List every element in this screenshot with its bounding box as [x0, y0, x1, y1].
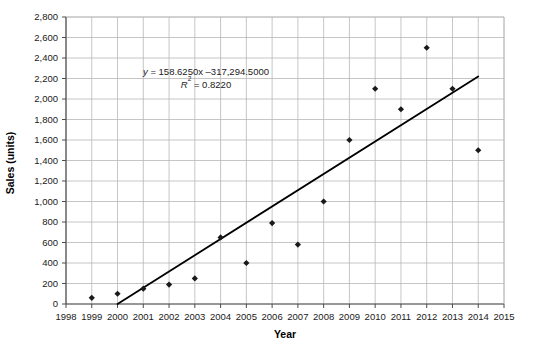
y-axis-tick-label: 1,400: [34, 155, 58, 166]
x-axis-tick-label: 2008: [313, 311, 334, 322]
y-axis-tick-label: 2,000: [34, 93, 58, 104]
x-axis-tick-label: 2005: [236, 311, 257, 322]
y-axis-tick-label: 800: [42, 216, 58, 227]
y-axis-title: Sales (units): [4, 132, 16, 194]
y-axis-tick-label: 0: [53, 298, 58, 309]
y-axis-tick-label: 200: [42, 278, 58, 289]
x-axis-tick-label: 2009: [339, 311, 360, 322]
x-axis-tick-label: 2014: [468, 311, 489, 322]
x-axis-title: Year: [274, 328, 296, 340]
equation-body: = 158.6250x –317,294.5000: [148, 66, 269, 77]
r-squared-value: = 0.8220: [191, 79, 231, 90]
y-axis-tick-label: 400: [42, 257, 58, 268]
y-axis-tick-label: 2,400: [34, 52, 58, 63]
y-axis-tick-label: 1,000: [34, 196, 58, 207]
regression-equation-label: y = 158.6250x –317,294.5000: [142, 66, 269, 77]
x-axis-tick-label: 2004: [210, 311, 231, 322]
x-axis-tick-label: 2003: [184, 311, 205, 322]
x-axis-tick-label: 2011: [391, 311, 411, 322]
x-axis-tick-label: 2015: [493, 311, 514, 322]
x-axis-tick-label: 2001: [133, 311, 154, 322]
x-axis-tick-label: 2012: [416, 311, 437, 322]
scatter-chart: 02004006008001,0001,2001,4001,6001,8002,…: [0, 0, 536, 347]
x-axis-tick-label: 2007: [287, 311, 308, 322]
y-axis-tick-label: 1,200: [34, 175, 58, 186]
y-axis-tick-label: 2,600: [34, 32, 58, 43]
x-axis-tick-label: 1998: [55, 311, 76, 322]
x-axis-tick-label: 2002: [158, 311, 179, 322]
x-axis-tick-label: 2006: [262, 311, 283, 322]
y-axis-tick-label: 600: [42, 237, 58, 248]
y-axis-tick-label: 1,600: [34, 134, 58, 145]
y-axis-tick-label: 2,800: [34, 11, 58, 22]
x-axis-tick-label: 2013: [442, 311, 463, 322]
y-axis-tick-label: 2,200: [34, 73, 58, 84]
x-axis-tick-label: 2010: [365, 311, 386, 322]
x-axis-tick-label: 1999: [81, 311, 102, 322]
y-axis-tick-label: 1,800: [34, 114, 58, 125]
x-axis-tick-label: 2000: [107, 311, 128, 322]
chart-canvas: 02004006008001,0001,2001,4001,6001,8002,…: [0, 0, 536, 347]
chart-background: [0, 0, 536, 347]
